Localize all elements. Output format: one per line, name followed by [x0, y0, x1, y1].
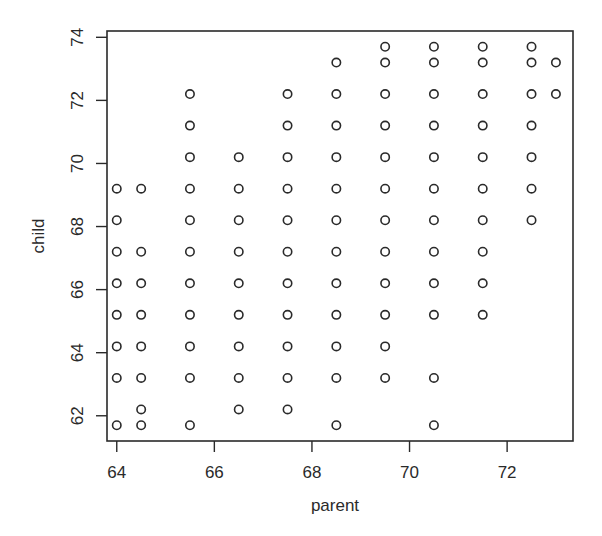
y-tick-label: 70 — [68, 154, 87, 173]
data-point — [552, 90, 560, 98]
data-point — [479, 248, 487, 256]
data-point — [332, 421, 340, 429]
y-tick-label: 62 — [68, 406, 87, 425]
data-point — [235, 374, 243, 382]
data-point — [527, 43, 535, 51]
data-point — [283, 90, 291, 98]
data-point — [527, 216, 535, 224]
data-point — [235, 184, 243, 192]
data-point — [283, 216, 291, 224]
data-point — [479, 153, 487, 161]
data-point — [186, 248, 194, 256]
data-point — [137, 342, 145, 350]
data-points — [113, 43, 561, 430]
data-point — [332, 374, 340, 382]
data-point — [381, 311, 389, 319]
data-point — [113, 184, 121, 192]
data-point — [113, 342, 121, 350]
data-point — [235, 405, 243, 413]
data-point — [186, 311, 194, 319]
data-point — [235, 153, 243, 161]
data-point — [186, 374, 194, 382]
data-point — [381, 248, 389, 256]
data-point — [479, 43, 487, 51]
data-point — [137, 279, 145, 287]
x-axis: 6466687072 — [107, 441, 516, 482]
data-point — [283, 311, 291, 319]
x-axis-title: parent — [311, 496, 359, 515]
data-point — [479, 216, 487, 224]
data-point — [430, 153, 438, 161]
x-tick-label: 64 — [107, 463, 126, 482]
data-point — [332, 184, 340, 192]
data-point — [186, 153, 194, 161]
data-point — [430, 121, 438, 129]
data-point — [283, 248, 291, 256]
y-tick-label: 64 — [68, 343, 87, 362]
data-point — [552, 58, 560, 66]
y-axis-title: child — [29, 219, 48, 254]
x-tick-label: 72 — [498, 463, 517, 482]
data-point — [479, 311, 487, 319]
data-point — [479, 184, 487, 192]
data-point — [479, 121, 487, 129]
x-tick-label: 70 — [400, 463, 419, 482]
data-point — [235, 279, 243, 287]
data-point — [332, 90, 340, 98]
x-tick-label: 68 — [302, 463, 321, 482]
data-point — [235, 311, 243, 319]
x-tick-label: 66 — [205, 463, 224, 482]
data-point — [332, 279, 340, 287]
data-point — [186, 279, 194, 287]
data-point — [235, 248, 243, 256]
scatter-chart: 6466687072 62646668707274 parent child — [0, 0, 602, 536]
data-point — [430, 184, 438, 192]
data-point — [381, 184, 389, 192]
data-point — [527, 90, 535, 98]
data-point — [137, 248, 145, 256]
data-point — [186, 90, 194, 98]
data-point — [430, 43, 438, 51]
data-point — [527, 153, 535, 161]
data-point — [527, 121, 535, 129]
data-point — [381, 58, 389, 66]
data-point — [332, 58, 340, 66]
data-point — [430, 421, 438, 429]
data-point — [381, 90, 389, 98]
data-point — [137, 405, 145, 413]
data-point — [527, 184, 535, 192]
data-point — [332, 121, 340, 129]
data-point — [235, 342, 243, 350]
data-point — [186, 421, 194, 429]
data-point — [283, 184, 291, 192]
data-point — [137, 421, 145, 429]
data-point — [137, 374, 145, 382]
data-point — [186, 121, 194, 129]
data-point — [381, 374, 389, 382]
data-point — [235, 216, 243, 224]
data-point — [332, 311, 340, 319]
y-tick-label: 72 — [68, 91, 87, 110]
data-point — [381, 43, 389, 51]
data-point — [332, 153, 340, 161]
data-point — [283, 279, 291, 287]
data-point — [332, 342, 340, 350]
data-point — [430, 374, 438, 382]
data-point — [283, 121, 291, 129]
data-point — [137, 184, 145, 192]
data-point — [113, 248, 121, 256]
data-point — [527, 58, 535, 66]
data-point — [186, 184, 194, 192]
data-point — [113, 374, 121, 382]
data-point — [381, 121, 389, 129]
data-point — [113, 279, 121, 287]
data-point — [283, 405, 291, 413]
y-tick-label: 74 — [68, 28, 87, 47]
data-point — [186, 342, 194, 350]
data-point — [137, 311, 145, 319]
y-axis: 62646668707274 — [68, 28, 107, 425]
data-point — [430, 311, 438, 319]
data-point — [479, 58, 487, 66]
data-point — [283, 153, 291, 161]
data-point — [332, 248, 340, 256]
